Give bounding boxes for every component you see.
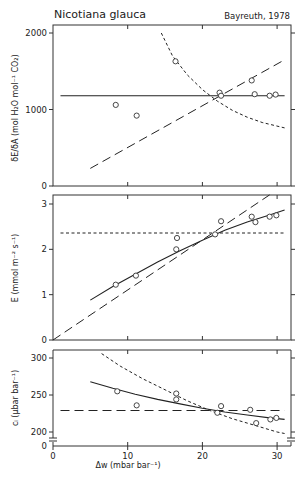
data-point [113, 102, 118, 107]
series-line-short-dash [161, 33, 284, 128]
data-point [212, 232, 217, 237]
data-point [253, 220, 258, 225]
data-point [174, 391, 179, 396]
bottom-panel-ylabel: cᵢ (µbar bar⁻¹) [11, 370, 20, 426]
x-tick-label: 0 [50, 451, 55, 461]
data-point [174, 235, 179, 240]
top-panel-ylabel: δE/δA (mol H₂O mol⁻¹ CO₂) [11, 54, 20, 161]
bottom-panel: 20025030000102030 cᵢ (µbar bar⁻¹) Δw (mb… [11, 350, 295, 470]
y-tick-label: 0 [42, 181, 47, 191]
data-point [273, 92, 278, 97]
data-point [218, 219, 223, 224]
data-point [249, 78, 254, 83]
x-tick-label: 30 [272, 451, 283, 461]
chart-figure: 010002000 δE/δA (mol H₂O mol⁻¹ CO₂) 0123… [0, 0, 308, 485]
x-axis-label: Δw (mbar bar⁻¹) [95, 461, 160, 470]
data-point [254, 421, 259, 426]
data-point [249, 214, 254, 219]
y-tick-label: 2 [42, 244, 47, 254]
data-point [133, 273, 138, 278]
data-point [115, 389, 120, 394]
data-point [174, 247, 179, 252]
data-point [274, 213, 279, 218]
data-point [274, 415, 279, 420]
y-tick-label: 0 [42, 335, 47, 345]
axis-break-left-icon [49, 438, 57, 441]
data-point [174, 397, 179, 402]
data-point [215, 410, 220, 415]
y-tick-label: 200 [31, 427, 47, 437]
data-point [252, 92, 257, 97]
data-point [134, 113, 139, 118]
y-tick-label: 0 [42, 441, 47, 451]
axis-break-right-icon [287, 438, 295, 441]
y-tick-label: 3 [42, 199, 47, 209]
y-tick-label: 1 [42, 290, 47, 300]
series-line-long-dash [53, 195, 270, 340]
series-line-solid [90, 382, 284, 420]
data-point [218, 404, 223, 409]
data-point [218, 93, 223, 98]
data-point [267, 214, 272, 219]
y-tick-label: 1000 [25, 105, 47, 115]
x-tick-label: 10 [122, 451, 133, 461]
y-tick-label: 300 [31, 353, 47, 363]
data-point [268, 417, 273, 422]
series-line-long-dash [90, 60, 284, 169]
middle-panel-ylabel: E (mmol m⁻² s⁻¹) [11, 234, 20, 302]
middle-panel: 0123 E (mmol m⁻² s⁻¹) [11, 195, 295, 345]
data-point [267, 93, 272, 98]
y-tick-label: 2000 [25, 28, 47, 38]
data-point [173, 59, 178, 64]
top-panel: 010002000 δE/δA (mol H₂O mol⁻¹ CO₂) [11, 25, 295, 191]
x-tick-label: 20 [197, 451, 208, 461]
y-tick-label: 250 [31, 390, 47, 400]
data-point [248, 407, 253, 412]
data-point [134, 403, 139, 408]
data-point [113, 282, 118, 287]
